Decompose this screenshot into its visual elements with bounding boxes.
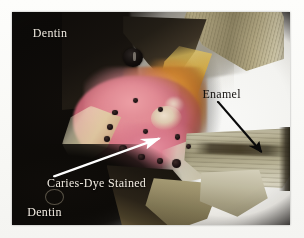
enamel-arrow — [212, 99, 273, 163]
label-dentin: Dentin — [33, 27, 67, 40]
enamel-slab-edge — [279, 127, 290, 191]
figure-page: Dentin Caries-Dye Stained Dentin Enamel — [0, 0, 304, 238]
indentation-mark — [112, 110, 118, 115]
micrograph-photo: Dentin Caries-Dye Stained Dentin Enamel — [12, 12, 290, 225]
indentation-mark — [175, 134, 181, 139]
caries-dye-stained-dentin-arrow — [51, 131, 168, 182]
label-caries-line2: Dentin — [27, 205, 146, 220]
indentation-mark — [186, 144, 191, 149]
